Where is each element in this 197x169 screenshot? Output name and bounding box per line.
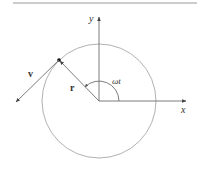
angle-label: ωt — [112, 76, 121, 86]
velocity-vector-label: v — [28, 68, 33, 79]
y-axis-label: y — [88, 13, 94, 24]
velocity-vector-v — [16, 60, 59, 102]
circular-motion-diagram: y x ωt r v — [0, 0, 197, 169]
position-vector-r — [60, 61, 99, 101]
position-vector-label: r — [70, 82, 75, 93]
x-axis-label: x — [180, 104, 186, 115]
